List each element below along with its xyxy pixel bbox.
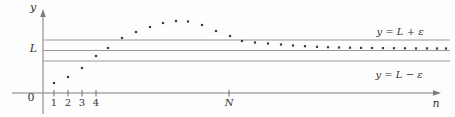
sequence-point-21 xyxy=(316,46,318,48)
tick-label-2: 2 xyxy=(65,97,71,108)
sequence-point-12 xyxy=(201,24,203,26)
sequence-point-19 xyxy=(292,44,294,46)
sequence-point-15 xyxy=(241,40,243,42)
upper-epsilon-label: y = L + ε xyxy=(375,26,423,37)
origin-label: 0 xyxy=(28,91,35,104)
sequence-point-27 xyxy=(382,47,384,49)
sequence-point-20 xyxy=(304,45,306,47)
sequence-point-2 xyxy=(67,76,69,78)
sequence-point-4 xyxy=(95,55,97,57)
x-axis-label: n xyxy=(432,97,439,110)
sequence-point-9 xyxy=(162,22,164,24)
sequence-point-31 xyxy=(426,47,428,49)
sequence-point-23 xyxy=(338,46,340,48)
tick-label-4: 4 xyxy=(93,97,99,108)
sequence-point-29 xyxy=(404,47,406,49)
sequence-point-24 xyxy=(349,47,351,49)
sequence-point-10 xyxy=(175,20,177,22)
limit-label: L xyxy=(29,42,37,55)
sequence-point-11 xyxy=(187,20,189,22)
sequence-point-6 xyxy=(121,37,123,39)
sequence-point-26 xyxy=(371,47,373,49)
tick-label-N: N xyxy=(224,97,235,108)
tick-label-3: 3 xyxy=(79,97,85,108)
sequence-limit-figure: 1234Nyn0Ly = L + εy = L − ε xyxy=(0,0,455,117)
tick-label-1: 1 xyxy=(51,97,57,108)
sequence-point-13 xyxy=(215,30,217,32)
sequence-point-16 xyxy=(254,41,256,43)
sequence-point-7 xyxy=(135,31,137,33)
sequence-point-17 xyxy=(267,42,269,44)
sequence-point-1 xyxy=(53,82,55,84)
sequence-point-5 xyxy=(107,47,109,49)
sequence-point-18 xyxy=(280,43,282,45)
sequence-point-28 xyxy=(393,47,395,49)
sequence-point-22 xyxy=(327,46,329,48)
sequence-point-30 xyxy=(415,47,417,49)
y-axis-label: y xyxy=(29,1,37,14)
sequence-point-8 xyxy=(149,26,151,28)
sequence-point-14 xyxy=(229,35,231,37)
sequence-point-25 xyxy=(360,47,362,49)
sequence-point-3 xyxy=(81,67,83,69)
sequence-limit-diagram: 1234Nyn0Ly = L + εy = L − ε xyxy=(0,0,455,117)
lower-epsilon-label: y = L − ε xyxy=(374,69,422,80)
sequence-point-32 xyxy=(436,47,438,49)
sequence-point-33 xyxy=(445,47,447,49)
